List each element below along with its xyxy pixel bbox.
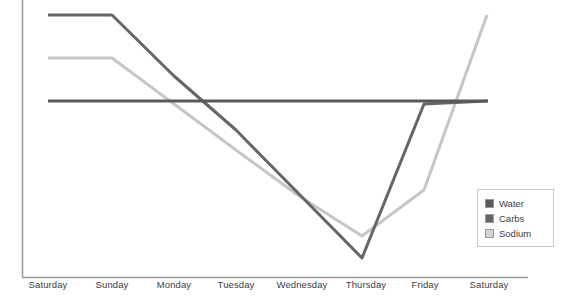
- legend-label-sodium: Sodium: [499, 228, 531, 239]
- legend-label-carbs: Carbs: [499, 213, 524, 224]
- chart-legend: Water Carbs Sodium: [477, 189, 554, 247]
- x-tick-label-5: Thursday: [346, 279, 386, 290]
- legend-swatch-water: [485, 199, 494, 208]
- series-line-sodium: [48, 15, 487, 236]
- x-tick-label-3: Tuesday: [218, 279, 255, 290]
- x-tick-label-2: Monday: [157, 279, 191, 290]
- chart-plot-area: [0, 0, 566, 308]
- x-tick-label-0: Saturday: [29, 279, 68, 290]
- legend-swatch-carbs: [485, 214, 494, 223]
- legend-swatch-sodium: [485, 229, 494, 238]
- series-line-carbs: [48, 15, 487, 258]
- x-tick-label-4: Wednesday: [277, 279, 328, 290]
- legend-item-water[interactable]: Water: [485, 196, 546, 210]
- x-tick-label-6: Friday: [412, 279, 439, 290]
- legend-item-carbs[interactable]: Carbs: [485, 211, 546, 225]
- x-tick-label-7: Saturday: [470, 279, 509, 290]
- x-tick-label-1: Sunday: [96, 279, 129, 290]
- line-chart: Saturday Sunday Monday Tuesday Wednesday…: [0, 0, 566, 308]
- legend-item-sodium[interactable]: Sodium: [485, 226, 546, 240]
- legend-label-water: Water: [499, 198, 524, 209]
